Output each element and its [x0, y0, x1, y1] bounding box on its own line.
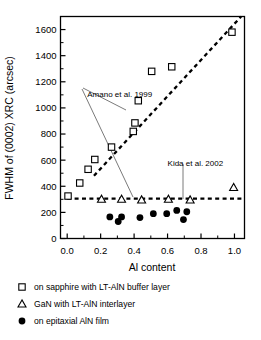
annotation-label-0: Amano et al. 1999 — [87, 90, 152, 99]
y-tick-label: 800 — [41, 128, 57, 139]
x-tick-label: 0.8 — [194, 245, 207, 256]
legend-marker-0 — [19, 284, 25, 290]
y-tick-label: 1000 — [35, 102, 56, 113]
y-tick-label: 1400 — [35, 50, 56, 61]
data-point — [150, 210, 157, 217]
figure-container: FWHM of (0002) XRC (arcsec) 020040060080… — [0, 0, 261, 340]
data-point — [183, 208, 190, 215]
legend-label-0: on sapphire with LT-AlN buffer layer — [34, 282, 170, 292]
legend-marker-2 — [19, 318, 26, 325]
legend-label-2: on epitaxial AlN film — [34, 316, 109, 326]
y-tick-label: 600 — [41, 155, 57, 166]
y-axis-title: FWHM of (0002) XRC (arcsec) — [3, 56, 15, 200]
data-point — [77, 180, 83, 186]
data-point — [137, 214, 144, 221]
x-tick-label: 1.0 — [228, 245, 241, 256]
x-tick-label: 0.6 — [161, 245, 174, 256]
y-tick-label: 400 — [41, 181, 57, 192]
data-point — [130, 128, 136, 134]
data-point — [108, 144, 114, 150]
data-point — [163, 210, 170, 217]
data-point — [92, 156, 98, 162]
data-point — [106, 214, 113, 221]
y-tick-label: 0 — [51, 233, 56, 244]
data-point — [65, 193, 71, 199]
data-point — [173, 207, 180, 214]
data-point — [135, 98, 141, 104]
data-point — [229, 29, 235, 35]
x-axis-title: Al content — [129, 261, 176, 273]
annotation-label-1: Kida et al. 2002 — [168, 159, 224, 168]
xrd-fwhm-scatter-chart: FWHM of (0002) XRC (arcsec) 020040060080… — [0, 0, 261, 340]
y-tick-label: 1600 — [35, 24, 56, 35]
data-point — [132, 120, 138, 126]
data-point — [118, 214, 125, 221]
legend-label-1: GaN with LT-AlN interlayer — [34, 299, 135, 309]
y-tick-label: 1200 — [35, 76, 56, 87]
x-tick-label: 0.4 — [127, 245, 140, 256]
x-tick-label: 0.2 — [94, 245, 107, 256]
data-point — [180, 216, 187, 223]
data-point — [169, 64, 175, 70]
x-tick-label: 0.0 — [61, 245, 74, 256]
data-point — [85, 166, 91, 172]
data-point — [148, 68, 154, 74]
y-tick-label: 200 — [41, 207, 57, 218]
